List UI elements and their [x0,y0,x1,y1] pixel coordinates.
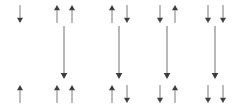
arrow-head-down [17,18,23,23]
arrow-up-top [69,5,75,23]
arrow-head-down [220,18,226,23]
arrow-head-up [69,85,75,90]
arrow-head-up [54,85,60,90]
arrow-up-bottom [109,85,115,103]
arrow-long-down [212,26,219,79]
arrow-row-top-4 [157,5,178,23]
arrow-head-down [220,98,226,103]
arrow-head-up [54,5,60,10]
arrow-head-down [164,73,171,79]
arrow-head-down [212,73,219,79]
arrow-head-down [124,18,130,23]
arrow-row-top-3 [109,5,130,23]
arrow-head-up [17,85,23,90]
arrow-group-2 [54,5,75,103]
arrow-head-up [109,85,115,90]
arrow-row-bottom-3 [109,85,130,103]
arrow-up-bottom [17,85,23,103]
arrow-down-top [17,5,23,23]
arrow-row-top-1 [17,5,23,23]
arrow-head-down [61,73,68,79]
arrow-down-bottom [205,85,211,103]
arrow-long-down [116,26,123,79]
arrow-head-up [109,5,115,10]
arrow-head-down [205,98,211,103]
arrow-head-down [157,98,163,103]
arrow-head-down [205,18,211,23]
arrow-down-bottom [220,85,226,103]
arrow-row-middle-2 [61,26,68,79]
arrow-head-down [124,98,130,103]
arrow-down-bottom [157,85,163,103]
arrow-up-top [109,5,115,23]
arrow-group-5 [205,5,226,103]
arrow-down-top [157,5,163,23]
arrow-down-top [220,5,226,23]
arrow-row-middle-4 [164,26,171,79]
arrow-head-up [172,5,178,10]
arrow-group-1 [17,5,23,103]
arrow-row-middle-5 [212,26,219,79]
arrow-up-bottom [172,85,178,103]
arrow-row-middle-3 [116,26,123,79]
arrow-group-4 [157,5,178,103]
arrow-diagram-svg [0,0,246,108]
arrow-row-bottom-1 [17,85,23,103]
arrow-row-bottom-4 [157,85,178,103]
arrow-group-3 [109,5,130,103]
arrow-head-down [116,73,123,79]
arrow-head-down [157,18,163,23]
arrow-row-top-5 [205,5,226,23]
arrow-down-bottom [124,85,130,103]
arrow-row-top-2 [54,5,75,23]
arrow-down-top [205,5,211,23]
arrow-row-bottom-2 [54,85,75,103]
arrow-down-top [124,5,130,23]
arrow-head-up [172,85,178,90]
arrow-up-top [54,5,60,23]
arrow-diagram-canvas [0,0,246,108]
arrow-head-up [69,5,75,10]
arrow-row-bottom-5 [205,85,226,103]
arrow-up-bottom [54,85,60,103]
arrow-long-down [61,26,68,79]
arrow-long-down [164,26,171,79]
arrow-up-bottom [69,85,75,103]
arrow-up-top [172,5,178,23]
